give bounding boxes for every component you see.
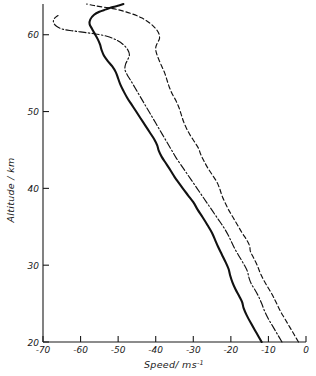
chart-canvas: 2030405060 -70-60-50-40-30-20-100 Speed/… (0, 0, 316, 376)
x-tick-label-group: -70-60-50-40-30-20-100 (36, 345, 309, 355)
y-tick-label-30: 30 (28, 261, 40, 271)
x-tick-label-0: 0 (303, 345, 309, 355)
x-tick-label--10: -10 (261, 345, 276, 355)
y-axis-title: Altitude / km (5, 157, 16, 223)
x-axis-title-exponent: -1 (197, 359, 204, 367)
x-tick-group (43, 336, 306, 342)
x-tick-label--30: -30 (186, 345, 201, 355)
x-tick-label--70: -70 (36, 345, 51, 355)
x-tick-label--20: -20 (224, 345, 239, 355)
x-tick-label--60: -60 (73, 345, 88, 355)
x-axis-title: Speed/ ms-1 (144, 359, 204, 371)
curve-solid-curve (89, 4, 261, 342)
y-axis: 2030405060 (28, 4, 49, 348)
x-axis: -70-60-50-40-30-20-100 (36, 336, 309, 355)
x-tick-label--50: -50 (111, 345, 126, 355)
y-tick-label-50: 50 (28, 107, 40, 117)
data-curves (53, 4, 298, 342)
curve-dash-dot-curve (53, 16, 282, 342)
wind-speed-altitude-figure: 2030405060 -70-60-50-40-30-20-100 Speed/… (0, 0, 316, 376)
y-tick-label-group: 2030405060 (28, 30, 40, 347)
x-tick-label--40: -40 (148, 345, 163, 355)
curve-dashed-curve (87, 4, 299, 342)
y-tick-label-40: 40 (28, 184, 40, 194)
x-axis-title-text: Speed/ ms (144, 359, 197, 370)
y-tick-group (43, 35, 49, 342)
y-tick-label-60: 60 (28, 30, 40, 40)
